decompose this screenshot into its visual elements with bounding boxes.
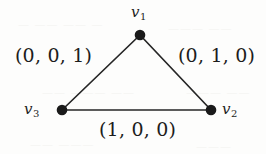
vertex-node-v2 (206, 105, 217, 116)
vertex-label-v3: v3 (24, 102, 39, 117)
vertex-label-v2: v2 (222, 102, 237, 117)
vertex-label-v2-index: 2 (231, 108, 237, 119)
vertex-label-v3-symbol: v (24, 100, 32, 118)
vertex-label-v1: v1 (131, 5, 146, 20)
vertex-node-v1 (135, 30, 146, 41)
vertex-group (57, 30, 217, 116)
edge-label-v1-v2: (0, 1, 0) (178, 46, 255, 65)
vertex-label-v2-symbol: v (222, 100, 230, 118)
vertex-label-v1-symbol: v (131, 3, 139, 21)
edge-label-v3-v1: (0, 0, 1) (15, 46, 92, 65)
vertex-node-v3 (57, 105, 68, 116)
vertex-label-v3-index: 3 (33, 108, 39, 119)
edge-label-v3-v2: (1, 0, 0) (99, 120, 176, 139)
vertex-label-v1-index: 1 (140, 11, 146, 22)
figure-canvas: — —— —— — ——— —— —— ——— —— ——— —— —— ———… (0, 0, 266, 154)
